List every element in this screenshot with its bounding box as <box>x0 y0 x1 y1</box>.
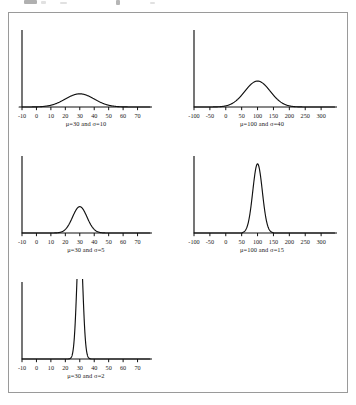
svg-text:0: 0 <box>224 112 227 119</box>
svg-text:150: 150 <box>269 238 278 245</box>
svg-text:100: 100 <box>253 238 262 245</box>
svg-text:300: 300 <box>316 238 325 245</box>
normal-curve-plot-2: -100-50050100150200250300 <box>179 27 345 122</box>
svg-text:50: 50 <box>106 364 112 371</box>
svg-text:30: 30 <box>77 238 83 245</box>
svg-text:40: 40 <box>91 364 97 371</box>
svg-text:40: 40 <box>91 238 97 245</box>
svg-text:50: 50 <box>106 238 112 245</box>
normal-curve-plot-3: -10010203040506070 <box>11 153 161 248</box>
svg-text:-100: -100 <box>188 238 199 245</box>
figure-frame: -10010203040506070 μ=30 and σ=10 -100-50… <box>8 12 348 393</box>
svg-text:40: 40 <box>91 112 97 119</box>
svg-text:-50: -50 <box>206 238 214 245</box>
svg-text:10: 10 <box>48 112 54 119</box>
svg-text:70: 70 <box>134 238 140 245</box>
scan-artifact-top-text <box>0 0 356 11</box>
svg-text:300: 300 <box>316 112 325 119</box>
svg-text:70: 70 <box>134 364 140 371</box>
svg-text:200: 200 <box>285 112 294 119</box>
panel-caption-1: μ=30 and σ=10 <box>11 120 161 128</box>
svg-text:250: 250 <box>301 112 310 119</box>
plot-panel-4: -100-50050100150200250300 μ=100 and σ=15 <box>179 153 345 265</box>
svg-text:60: 60 <box>120 238 126 245</box>
svg-text:30: 30 <box>77 364 83 371</box>
panel-caption-4: μ=100 and σ=15 <box>179 246 345 254</box>
panel-caption-3: μ=30 and σ=5 <box>11 246 161 254</box>
svg-text:0: 0 <box>35 364 38 371</box>
svg-text:100: 100 <box>253 112 262 119</box>
svg-text:30: 30 <box>77 112 83 119</box>
svg-text:20: 20 <box>62 364 68 371</box>
normal-curve-plot-4: -100-50050100150200250300 <box>179 153 345 248</box>
svg-text:70: 70 <box>134 112 140 119</box>
svg-text:10: 10 <box>48 238 54 245</box>
svg-text:200: 200 <box>285 238 294 245</box>
svg-text:60: 60 <box>120 364 126 371</box>
svg-text:-10: -10 <box>18 112 26 119</box>
plot-panel-2: -100-50050100150200250300 μ=100 and σ=40 <box>179 27 345 139</box>
svg-text:20: 20 <box>62 112 68 119</box>
plot-panel-5: -10010203040506070 μ=30 and σ=2 <box>11 279 161 391</box>
panel-caption-5: μ=30 and σ=2 <box>11 372 161 380</box>
svg-text:-10: -10 <box>18 364 26 371</box>
svg-text:0: 0 <box>224 238 227 245</box>
svg-text:10: 10 <box>48 364 54 371</box>
normal-curve-plot-1: -10010203040506070 <box>11 27 161 122</box>
svg-text:-10: -10 <box>18 238 26 245</box>
svg-text:150: 150 <box>269 112 278 119</box>
svg-text:50: 50 <box>239 238 245 245</box>
plot-panel-1: -10010203040506070 μ=30 and σ=10 <box>11 27 161 139</box>
svg-text:50: 50 <box>239 112 245 119</box>
svg-text:250: 250 <box>301 238 310 245</box>
svg-text:60: 60 <box>120 112 126 119</box>
svg-text:0: 0 <box>35 238 38 245</box>
svg-text:-100: -100 <box>188 112 199 119</box>
normal-curve-plot-5: -10010203040506070 <box>11 279 161 374</box>
plot-panel-3: -10010203040506070 μ=30 and σ=5 <box>11 153 161 265</box>
svg-text:50: 50 <box>106 112 112 119</box>
svg-text:0: 0 <box>35 112 38 119</box>
svg-text:-50: -50 <box>206 112 214 119</box>
panel-caption-2: μ=100 and σ=40 <box>179 120 345 128</box>
svg-text:20: 20 <box>62 238 68 245</box>
